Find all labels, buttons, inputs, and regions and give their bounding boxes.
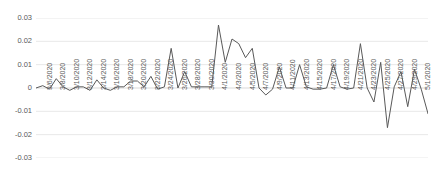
x-axis-tick-label: 3/14/2020 xyxy=(100,59,107,90)
x-axis-tick-label: 4/23/2020 xyxy=(370,59,377,90)
y-axis-tick-label: -0.01 xyxy=(15,107,32,115)
x-axis-tick-label: 4/7/2020 xyxy=(262,63,269,90)
y-axis-tick-label: 0 xyxy=(28,84,32,92)
x-axis-tick-label: 4/9/2020 xyxy=(276,63,283,90)
x-axis-tick-label: 4/21/2020 xyxy=(357,59,364,90)
x-axis-tick-label: 3/16/2020 xyxy=(113,59,120,90)
x-axis-tick-label: 4/29/2020 xyxy=(411,59,418,90)
x-axis-tick-label: 3/18/2020 xyxy=(127,59,134,90)
x-axis-tick-label: 4/11/2020 xyxy=(289,59,296,90)
x-axis-tick-label: 3/8/2020 xyxy=(59,63,66,90)
y-axis: 0.030.020.010-0.01-0.02-0.03 xyxy=(0,0,32,186)
x-axis-tick-label: 4/15/2020 xyxy=(316,59,323,90)
x-axis-tick-label: 4/17/2020 xyxy=(330,59,337,90)
x-axis-tick-label: 3/6/2020 xyxy=(46,63,53,90)
y-axis-tick-label: 0.01 xyxy=(17,61,32,69)
x-axis-tick-label: 3/28/2020 xyxy=(194,59,201,90)
x-axis-tick-label: 3/10/2020 xyxy=(73,59,80,90)
x-axis-tick-label: 3/12/2020 xyxy=(86,59,93,90)
x-axis-tick-label: 5/1/2020 xyxy=(424,63,431,90)
x-axis-tick-label: 3/26/2020 xyxy=(181,59,188,90)
x-axis: 3/6/20203/8/20203/10/20203/12/20203/14/2… xyxy=(36,90,428,186)
y-axis-tick-label: -0.02 xyxy=(15,131,32,139)
y-axis-tick-label: 0.03 xyxy=(17,14,32,22)
x-axis-tick-label: 4/25/2020 xyxy=(384,59,391,90)
line-chart: 0.030.020.010-0.01-0.02-0.03 3/6/20203/8… xyxy=(0,0,442,186)
x-axis-tick-label: 3/30/2020 xyxy=(208,59,215,90)
x-axis-tick-label: 4/13/2020 xyxy=(303,59,310,90)
x-axis-tick-label: 4/5/2020 xyxy=(249,63,256,90)
x-axis-tick-label: 3/24/2020 xyxy=(167,59,174,90)
x-axis-tick-label: 3/22/2020 xyxy=(154,59,161,90)
x-axis-tick-label: 4/1/2020 xyxy=(221,63,228,90)
x-axis-tick-label: 4/27/2020 xyxy=(397,59,404,90)
x-axis-tick-label: 4/3/2020 xyxy=(235,63,242,90)
y-axis-tick-label: -0.03 xyxy=(15,154,32,162)
x-axis-tick-label: 4/19/2020 xyxy=(343,59,350,90)
y-axis-tick-label: 0.02 xyxy=(17,37,32,45)
x-axis-tick-label: 3/20/2020 xyxy=(140,59,147,90)
